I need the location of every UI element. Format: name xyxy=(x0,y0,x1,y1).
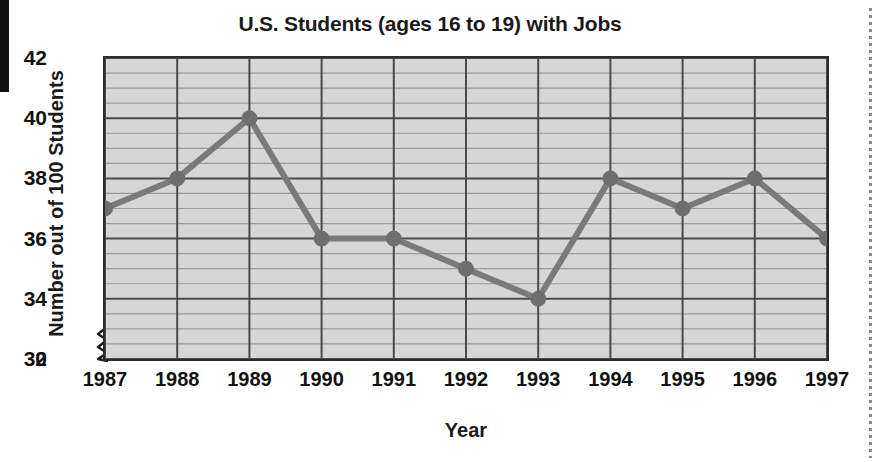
data-point-marker xyxy=(459,261,474,276)
x-axis-tick-label: 1997 xyxy=(784,368,870,391)
data-point-marker xyxy=(242,111,257,126)
y-axis-tick-label: 42 xyxy=(3,47,47,68)
plot-area xyxy=(103,56,829,361)
data-point-marker xyxy=(170,171,185,186)
y-axis-title: Number out of 100 Students xyxy=(45,44,68,364)
data-point-marker xyxy=(747,171,762,186)
data-point-marker xyxy=(603,171,618,186)
y-axis-tick-label: 38 xyxy=(3,167,47,188)
chart-title: U.S. Students (ages 16 to 19) with Jobs xyxy=(0,12,860,36)
y-axis-tick-label: 36 xyxy=(3,228,47,249)
data-point-marker xyxy=(531,291,546,306)
y-axis-zero-label: 0 xyxy=(3,348,47,369)
data-point-marker xyxy=(675,201,690,216)
x-axis-title: Year xyxy=(103,419,829,442)
y-axis-tick-label: 40 xyxy=(3,107,47,128)
data-point-marker xyxy=(314,231,329,246)
plot-grid-and-series xyxy=(105,58,827,359)
y-axis-tick-label: 34 xyxy=(3,288,47,309)
data-point-marker xyxy=(386,231,401,246)
